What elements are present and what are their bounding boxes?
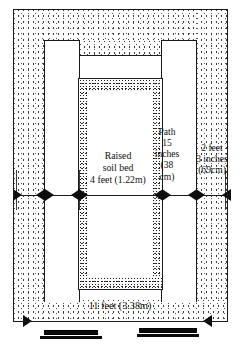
raised-bed-plan-diagram: Raised soil bed 4 feet (1.22m) Path 15 i…	[0, 0, 240, 345]
threshold-left	[44, 330, 98, 335]
threshold-cap-right	[137, 334, 199, 337]
threshold-cap-left	[40, 336, 102, 339]
threshold-right	[139, 328, 197, 333]
outer-boundary-outline	[13, 9, 228, 322]
